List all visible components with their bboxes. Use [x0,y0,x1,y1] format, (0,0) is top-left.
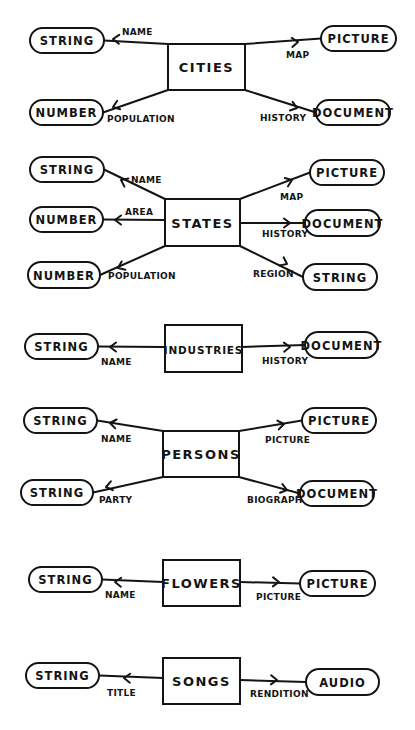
type-label: STRING [38,573,92,587]
connector-line [245,90,316,113]
entity-group-persons: NAMESTRINGPARTYSTRINGPICTUREPICTUREBIOGR… [21,408,378,506]
attribute-region: REGIONSTRING [240,246,377,290]
attribute-title: TITLESTRING [26,663,163,698]
attribute-history: HISTORYDOCUMENT [242,332,382,366]
relation-label: NAME [122,27,153,37]
relation-label: PARTY [99,495,133,505]
entity-group-states: NAMESTRINGAREANUMBERPOPULATIONNUMBERMAPP… [28,157,384,290]
attribute-map: MAPPICTURE [240,160,384,202]
relation-label: REGION [253,269,294,279]
attribute-picture: PICTUREPICTURE [239,408,376,445]
relation-label: MAP [286,50,310,60]
entity-group-flowers: NAMESTRINGPICTUREPICTUREFLOWERS [29,560,375,606]
connector-line [239,477,300,494]
connector-line [99,676,163,679]
relation-label: POPULATION [107,114,175,124]
type-label: DOCUMENT [302,217,384,231]
type-label: PICTURE [306,577,368,591]
entity-group-cities: NAMESTRINGPOPULATIONNUMBERMAPPICTUREHIST… [30,26,396,125]
type-label: STRING [35,669,89,683]
attribute-name: NAMESTRING [30,157,165,199]
connector-line [245,39,321,45]
attribute-history: HISTORYDOCUMENT [240,210,383,239]
relation-label: POPULATION [108,271,176,281]
relation-label: NAME [105,590,136,600]
arrowhead-icon [113,35,119,44]
connector-line [104,41,168,45]
attribute-map: MAPPICTURE [245,26,396,60]
arrowhead-icon [121,179,128,187]
relation-label: PICTURE [256,592,301,602]
attribute-picture: PICTUREPICTURE [240,571,375,602]
attribute-biography: BIOGRAPHYDOCUMENT [239,477,378,506]
type-label: STRING [30,486,84,500]
type-label: DOCUMENT [296,487,378,501]
relation-label: RENDITION [250,689,309,699]
type-label: STRING [313,271,367,285]
type-label: PICTURE [327,32,389,46]
type-label: NUMBER [33,269,95,283]
relation-label: NAME [101,434,132,444]
attribute-party: PARTYSTRING [21,477,163,505]
attribute-name: NAMESTRING [30,27,168,53]
type-label: DOCUMENT [301,339,383,353]
type-label: STRING [40,34,94,48]
type-label: PICTURE [308,414,370,428]
relation-label: AREA [125,207,153,217]
relation-label: TITLE [107,688,136,698]
entity-label: FLOWERS [161,576,242,591]
type-label: PICTURE [316,166,378,180]
arrowhead-icon [284,343,290,352]
relation-label: HISTORY [262,229,308,239]
attribute-name: NAMESTRING [24,408,163,444]
type-label: STRING [40,163,94,177]
attribute-population: POPULATIONNUMBER [30,90,175,125]
entity-group-industries: NAMESTRINGHISTORYDOCUMENTINDUSTRIES [25,325,382,372]
attribute-population: POPULATIONNUMBER [28,246,176,288]
relation-label: HISTORY [262,356,308,366]
connector-line [103,220,165,221]
connector-line [242,345,305,347]
entity-group-songs: TITLESTRINGRENDITIONAUDIOSONGS [26,658,379,704]
type-label: NUMBER [36,106,98,120]
type-label: STRING [33,414,87,428]
connector-line [103,90,168,113]
attribute-area: AREANUMBER [30,207,165,232]
entity-attribute-diagram: NAMESTRINGPOPULATIONNUMBERMAPPICTUREHIST… [0,0,415,730]
relation-label: NAME [131,175,162,185]
arrowhead-icon [271,675,277,684]
connector-line [240,582,300,584]
relation-label: PICTURE [265,435,310,445]
entity-label: CITIES [179,60,234,75]
arrowhead-icon [113,101,120,110]
relation-label: NAME [101,357,132,367]
entity-label: PERSONS [161,447,241,462]
relation-label: HISTORY [260,113,306,123]
type-label: DOCUMENT [312,106,394,120]
attribute-rendition: RENDITIONAUDIO [240,669,379,699]
type-label: NUMBER [36,213,98,227]
attribute-history: HISTORYDOCUMENT [245,90,394,125]
type-label: AUDIO [319,676,366,690]
arrowhead-icon [124,674,130,683]
connector-line [239,421,302,432]
arrowhead-icon [280,257,287,265]
connector-line [97,421,163,432]
type-label: STRING [34,340,88,354]
connector-line [102,580,163,583]
attribute-name: NAMESTRING [25,334,165,367]
entity-label: STATES [171,216,233,231]
attribute-name: NAMESTRING [29,567,163,600]
entity-label: SONGS [172,674,231,689]
entity-label: INDUSTRIES [164,344,243,356]
relation-label: MAP [280,192,304,202]
connector-line [93,477,163,493]
connector-line [98,347,165,348]
